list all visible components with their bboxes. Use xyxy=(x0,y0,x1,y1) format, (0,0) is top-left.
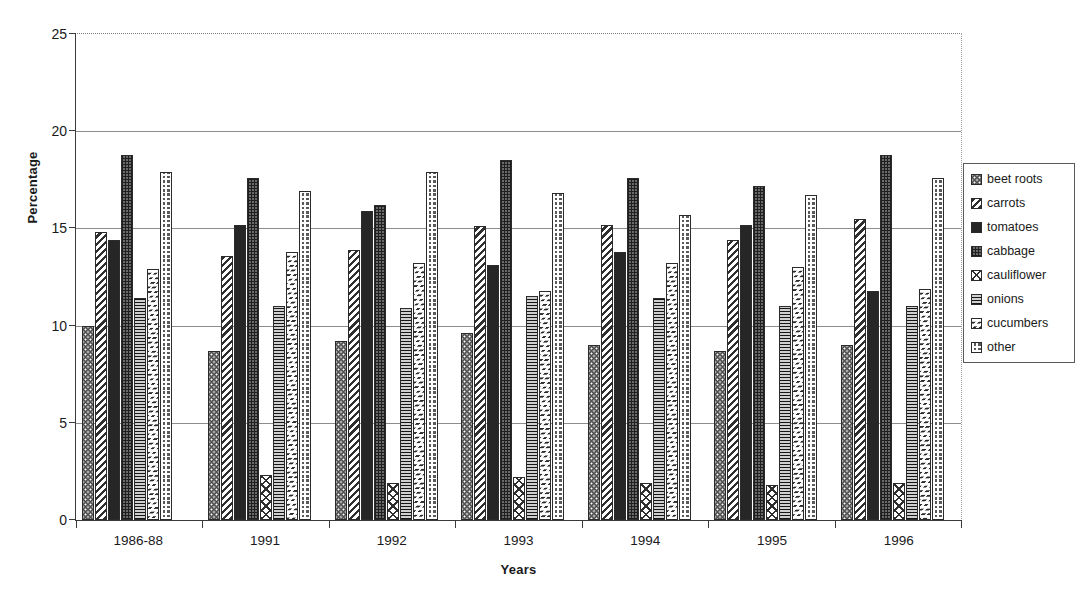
bar-beet-roots-1986-88 xyxy=(82,326,94,520)
bar-group-1994 xyxy=(582,34,708,520)
bar-other-1986-88 xyxy=(160,172,172,520)
bar-group-1992 xyxy=(329,34,455,520)
bar-tomatoes-1994 xyxy=(614,252,626,520)
legend-label: carrots xyxy=(987,196,1025,210)
y-tick-mark xyxy=(69,422,76,423)
x-tick-mark xyxy=(455,520,456,528)
bar-onions-1996 xyxy=(906,306,918,520)
bar-onions-1994 xyxy=(653,298,665,520)
bar-group-1991 xyxy=(202,34,328,520)
legend-label: cucumbers xyxy=(987,316,1048,330)
bar-cucumbers-1986-88 xyxy=(147,269,159,520)
bar-carrots-1992 xyxy=(348,250,360,520)
bar-group-1993 xyxy=(455,34,581,520)
legend-swatch-icon xyxy=(971,198,982,209)
legend-label: tomatoes xyxy=(987,220,1038,234)
legend-item-beet-roots[interactable]: beet roots xyxy=(971,172,1069,186)
bar-beet-roots-1993 xyxy=(461,333,473,520)
y-tick-mark xyxy=(69,325,76,326)
plot-area: 0510152025 xyxy=(75,33,962,521)
y-tick-mark xyxy=(69,33,76,34)
legend-swatch-icon xyxy=(971,174,982,185)
x-axis-labels: 1986-88199119921993199419951996 xyxy=(75,533,962,548)
x-tick-mark xyxy=(582,520,583,528)
bar-carrots-1986-88 xyxy=(95,232,107,520)
y-tick-label: 0 xyxy=(59,512,67,528)
bar-other-1994 xyxy=(679,215,691,520)
bar-tomatoes-1993 xyxy=(487,265,499,520)
bar-cucumbers-1992 xyxy=(413,263,425,520)
y-tick-label: 5 xyxy=(59,415,67,431)
legend-swatch-icon xyxy=(971,342,982,353)
bar-cauliflower-1995 xyxy=(766,485,778,520)
bar-cucumbers-1994 xyxy=(666,263,678,520)
legend-label: cauliflower xyxy=(987,268,1046,282)
x-tick-label: 1993 xyxy=(455,533,582,548)
bar-carrots-1995 xyxy=(727,240,739,520)
bar-groups xyxy=(76,34,961,520)
bar-onions-1992 xyxy=(400,308,412,520)
bar-other-1991 xyxy=(299,191,311,520)
y-tick-label: 25 xyxy=(51,26,67,42)
bar-beet-roots-1995 xyxy=(714,351,726,520)
bar-cabbage-1993 xyxy=(500,160,512,520)
legend-swatch-icon xyxy=(971,246,982,257)
bar-other-1995 xyxy=(805,195,817,520)
y-tick-mark xyxy=(69,130,76,131)
bar-group-1986-88 xyxy=(76,34,202,520)
x-tick-mark xyxy=(961,520,962,528)
legend-label: beet roots xyxy=(987,172,1043,186)
bar-tomatoes-1996 xyxy=(867,291,879,520)
x-tick-label: 1992 xyxy=(328,533,455,548)
legend-item-cauliflower[interactable]: cauliflower xyxy=(971,268,1069,282)
bar-cabbage-1994 xyxy=(627,178,639,520)
legend-item-cabbage[interactable]: cabbage xyxy=(971,244,1069,258)
bar-beet-roots-1992 xyxy=(335,341,347,520)
x-tick-label: 1995 xyxy=(709,533,836,548)
y-tick-label: 10 xyxy=(51,318,67,334)
bar-cabbage-1995 xyxy=(753,186,765,520)
legend-swatch-icon xyxy=(971,222,982,233)
x-tick-label: 1986-88 xyxy=(75,533,202,548)
bar-cauliflower-1994 xyxy=(640,483,652,520)
legend-label: cabbage xyxy=(987,244,1035,258)
y-tick-mark xyxy=(69,519,76,520)
bar-cabbage-1991 xyxy=(247,178,259,520)
bar-cabbage-1986-88 xyxy=(121,155,133,520)
bar-tomatoes-1992 xyxy=(361,211,373,520)
legend-item-other[interactable]: other xyxy=(971,340,1069,354)
bar-onions-1991 xyxy=(273,306,285,520)
x-tick-mark xyxy=(708,520,709,528)
legend-item-carrots[interactable]: carrots xyxy=(971,196,1069,210)
legend-swatch-icon xyxy=(971,270,982,281)
bar-chart: Percentage 0510152025 1986-8819911992199… xyxy=(0,0,1090,607)
bar-onions-1993 xyxy=(526,296,538,520)
x-tick-label: 1994 xyxy=(582,533,709,548)
chart-legend: beet rootscarrotstomatoescabbagecauliflo… xyxy=(963,163,1075,363)
y-tick-label: 20 xyxy=(51,123,67,139)
x-tick-mark xyxy=(202,520,203,528)
bar-cabbage-1996 xyxy=(880,155,892,520)
bar-tomatoes-1995 xyxy=(740,225,752,520)
bar-carrots-1993 xyxy=(474,226,486,520)
legend-item-onions[interactable]: onions xyxy=(971,292,1069,306)
y-tick-mark xyxy=(69,227,76,228)
x-tick-mark xyxy=(835,520,836,528)
x-tick-mark xyxy=(329,520,330,528)
bar-other-1996 xyxy=(932,178,944,520)
legend-swatch-icon xyxy=(971,294,982,305)
x-tick-label: 1996 xyxy=(835,533,962,548)
y-tick-label: 15 xyxy=(51,220,67,236)
bar-other-1992 xyxy=(426,172,438,520)
legend-item-cucumbers[interactable]: cucumbers xyxy=(971,316,1069,330)
legend-item-tomatoes[interactable]: tomatoes xyxy=(971,220,1069,234)
bar-carrots-1991 xyxy=(221,256,233,520)
bar-beet-roots-1991 xyxy=(208,351,220,520)
bar-onions-1986-88 xyxy=(134,298,146,520)
legend-label: other xyxy=(987,340,1016,354)
legend-swatch-icon xyxy=(971,318,982,329)
bar-carrots-1996 xyxy=(854,219,866,520)
bar-cauliflower-1993 xyxy=(513,477,525,520)
x-tick-label: 1991 xyxy=(202,533,329,548)
bar-cucumbers-1996 xyxy=(919,289,931,520)
